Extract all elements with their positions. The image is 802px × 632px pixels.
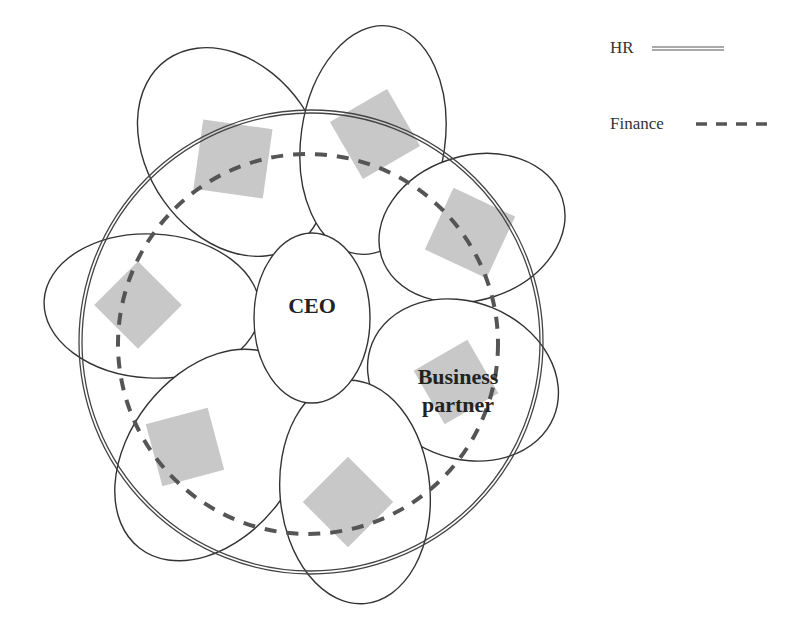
org-diagram xyxy=(0,0,802,632)
legend-hr-line xyxy=(652,47,724,50)
ceo-label: CEO xyxy=(282,292,342,320)
business-partner-label-line2: partner xyxy=(400,391,516,419)
legend-finance-label: Finance xyxy=(610,114,664,134)
business-partner-label-line1: Business xyxy=(400,363,516,391)
business-partner-label: Business partner xyxy=(400,363,516,419)
legend-hr-label: HR xyxy=(610,38,634,58)
